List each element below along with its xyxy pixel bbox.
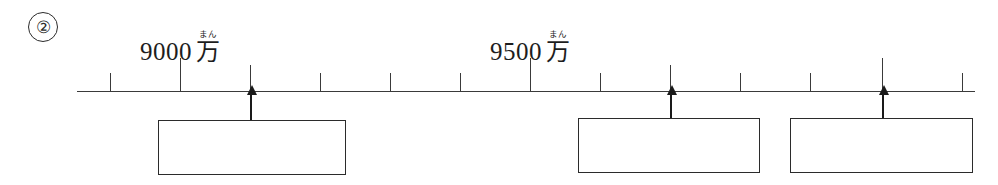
label-9000: 9000まん万 (140, 30, 220, 64)
axis-tick (740, 73, 741, 92)
axis-label-numerals: 9000 (140, 39, 192, 64)
answer-box-3[interactable] (790, 118, 973, 173)
axis-label-unit-ruby: まん万 (546, 30, 570, 64)
answer-box-2[interactable] (578, 118, 760, 173)
axis-label-unit-kanji: 万 (546, 40, 570, 64)
axis-tick (460, 73, 461, 92)
axis-tick (390, 73, 391, 92)
answer-pointer-arrow (250, 93, 252, 120)
answer-box-1[interactable] (158, 120, 346, 175)
axis-tick (962, 73, 963, 92)
axis-tick (810, 73, 811, 92)
number-line-axis (77, 91, 975, 92)
axis-label-unit-ruby: まん万 (196, 30, 220, 64)
axis-tick (320, 73, 321, 92)
answer-pointer-arrow (670, 93, 672, 118)
problem-number-badge: ② (28, 12, 58, 42)
label-9500: 9500まん万 (490, 30, 570, 64)
axis-label-numerals: 9500 (490, 39, 542, 64)
axis-tick (600, 73, 601, 92)
axis-tick (110, 73, 111, 92)
answer-pointer-arrow (882, 93, 884, 118)
axis-label-unit-kanji: 万 (196, 40, 220, 64)
worksheet-canvas: ② 9000まん万9500まん万 (0, 0, 998, 185)
